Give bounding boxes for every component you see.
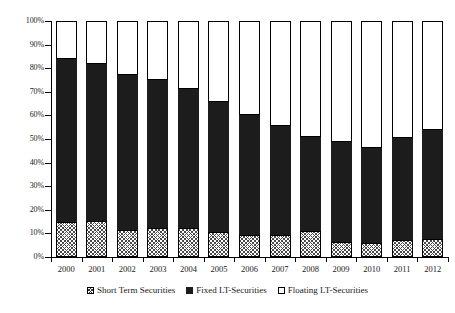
chart-legend: Short Term SecuritiesFixed LT-Securities… bbox=[0, 285, 455, 296]
bar-segment-fixed-lt-securities[interactable] bbox=[56, 59, 77, 222]
bar-group[interactable] bbox=[239, 21, 260, 257]
bar-segment-short-term-securities[interactable] bbox=[208, 232, 229, 257]
plot-area bbox=[51, 21, 448, 257]
y-axis-tick-label: 60% bbox=[2, 111, 44, 119]
filled-black-square-icon bbox=[186, 287, 193, 294]
x-axis-tick bbox=[417, 258, 418, 262]
bar-group[interactable] bbox=[86, 21, 107, 257]
bar-group[interactable] bbox=[422, 21, 443, 257]
bar-segment-floating-lt-securities[interactable] bbox=[422, 21, 443, 130]
x-axis-tick bbox=[204, 258, 205, 262]
y-axis-tick-label: 0% bbox=[2, 253, 44, 261]
bar-segment-floating-lt-securities[interactable] bbox=[270, 21, 291, 126]
x-axis-tick bbox=[173, 258, 174, 262]
bar-segment-floating-lt-securities[interactable] bbox=[300, 21, 321, 137]
x-axis-tick-label: 2012 bbox=[413, 264, 453, 274]
bar-segment-short-term-securities[interactable] bbox=[270, 235, 291, 257]
legend-item-label: Fixed LT-Securities bbox=[196, 285, 267, 296]
bar-segment-short-term-securities[interactable] bbox=[392, 240, 413, 257]
bar-group[interactable] bbox=[117, 21, 138, 257]
bar-segment-floating-lt-securities[interactable] bbox=[86, 21, 107, 64]
bar-segment-floating-lt-securities[interactable] bbox=[117, 21, 138, 75]
x-axis-tick bbox=[387, 258, 388, 262]
bar-group[interactable] bbox=[147, 21, 168, 257]
bar-segment-fixed-lt-securities[interactable] bbox=[422, 130, 443, 240]
bar-segment-short-term-securities[interactable] bbox=[300, 231, 321, 257]
bar-group[interactable] bbox=[208, 21, 229, 257]
legend-item-label: Short Term Securities bbox=[97, 285, 175, 296]
bar-segment-fixed-lt-securities[interactable] bbox=[86, 64, 107, 220]
y-axis-tick-label: 40% bbox=[2, 159, 44, 167]
bar-segment-floating-lt-securities[interactable] bbox=[147, 21, 168, 80]
x-axis-tick bbox=[112, 258, 113, 262]
bar-segment-short-term-securities[interactable] bbox=[331, 242, 352, 257]
y-axis-tick-label: 90% bbox=[2, 41, 44, 49]
bar-group[interactable] bbox=[178, 21, 199, 257]
x-axis-tick bbox=[295, 258, 296, 262]
bar-segment-fixed-lt-securities[interactable] bbox=[178, 89, 199, 229]
empty-square-icon bbox=[278, 287, 285, 294]
bar-segment-fixed-lt-securities[interactable] bbox=[270, 126, 291, 236]
bar-segment-fixed-lt-securities[interactable] bbox=[208, 102, 229, 232]
legend-item[interactable]: Fixed LT-Securities bbox=[186, 285, 267, 296]
bar-group[interactable] bbox=[270, 21, 291, 257]
bar-segment-short-term-securities[interactable] bbox=[178, 228, 199, 257]
bar-segment-short-term-securities[interactable] bbox=[422, 239, 443, 257]
x-axis-tick bbox=[143, 258, 144, 262]
bar-segment-floating-lt-securities[interactable] bbox=[361, 21, 382, 147]
bar-segment-short-term-securities[interactable] bbox=[117, 230, 138, 257]
legend-item[interactable]: Floating LT-Securities bbox=[278, 285, 368, 296]
bar-segment-floating-lt-securities[interactable] bbox=[56, 21, 77, 59]
y-axis-tick-label: 100% bbox=[2, 17, 44, 25]
y-axis-tick-label: 20% bbox=[2, 206, 44, 214]
bar-segment-short-term-securities[interactable] bbox=[56, 222, 77, 257]
y-axis-tick-label: 10% bbox=[2, 229, 44, 237]
x-axis-tick bbox=[356, 258, 357, 262]
bar-segment-short-term-securities[interactable] bbox=[361, 243, 382, 257]
x-axis-tick bbox=[51, 258, 52, 262]
bar-segment-fixed-lt-securities[interactable] bbox=[117, 75, 138, 231]
x-axis-line bbox=[51, 257, 449, 258]
legend-item[interactable]: Short Term Securities bbox=[87, 285, 175, 296]
hatched-square-icon bbox=[87, 287, 94, 294]
y-axis-tick-label: 80% bbox=[2, 64, 44, 72]
bar-group[interactable] bbox=[331, 21, 352, 257]
x-axis-tick bbox=[234, 258, 235, 262]
x-axis-tick bbox=[326, 258, 327, 262]
bar-group[interactable] bbox=[392, 21, 413, 257]
bar-segment-fixed-lt-securities[interactable] bbox=[147, 80, 168, 228]
bar-segment-fixed-lt-securities[interactable] bbox=[361, 148, 382, 243]
bar-segment-short-term-securities[interactable] bbox=[239, 235, 260, 257]
y-axis-tick-label: 30% bbox=[2, 182, 44, 190]
x-axis-tick bbox=[82, 258, 83, 262]
stacked-bar-chart: 0%10%20%30%40%50%60%70%80%90%100% 200020… bbox=[0, 0, 455, 313]
bar-segment-floating-lt-securities[interactable] bbox=[239, 21, 260, 115]
bar-segment-fixed-lt-securities[interactable] bbox=[239, 115, 260, 235]
bar-segment-short-term-securities[interactable] bbox=[147, 228, 168, 257]
bar-segment-floating-lt-securities[interactable] bbox=[178, 21, 199, 89]
bar-group[interactable] bbox=[361, 21, 382, 257]
bar-segment-fixed-lt-securities[interactable] bbox=[392, 138, 413, 240]
bar-group[interactable] bbox=[300, 21, 321, 257]
bar-segment-fixed-lt-securities[interactable] bbox=[331, 142, 352, 242]
x-axis-tick bbox=[265, 258, 266, 262]
y-axis-tick-label: 50% bbox=[2, 135, 44, 143]
bar-segment-short-term-securities[interactable] bbox=[86, 221, 107, 257]
bar-group[interactable] bbox=[56, 21, 77, 257]
bar-segment-floating-lt-securities[interactable] bbox=[331, 21, 352, 142]
y-axis-tick-label: 70% bbox=[2, 88, 44, 96]
bar-segment-floating-lt-securities[interactable] bbox=[392, 21, 413, 138]
bar-segment-floating-lt-securities[interactable] bbox=[208, 21, 229, 102]
bar-segment-fixed-lt-securities[interactable] bbox=[300, 137, 321, 231]
legend-item-label: Floating LT-Securities bbox=[288, 285, 368, 296]
x-axis-tick bbox=[448, 258, 449, 262]
